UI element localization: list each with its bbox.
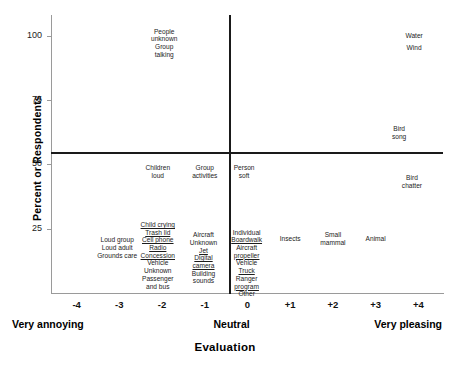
point-label: Unknown (141, 267, 175, 275)
point-label: Building (190, 270, 218, 278)
column-zero: IndividualBoardwalkAircraftpropellerVehi… (231, 229, 262, 298)
point-label: Animal (366, 235, 386, 243)
x-tick-minus2: -2 (142, 299, 182, 310)
y-tick-50: 50 (8, 158, 42, 168)
y-tick-75: 75 (8, 94, 42, 104)
point-label: Trash lid (141, 229, 175, 237)
x-tick-plus1: +1 (270, 299, 310, 310)
point-label: Vehicle (141, 259, 175, 267)
point-label: and bus (141, 283, 175, 291)
anchor-very-annoying: Very annoying (12, 318, 84, 330)
point-label: Water (405, 32, 422, 40)
y-tick-mark (47, 100, 51, 101)
x-tick-plus3: +3 (356, 299, 396, 310)
point-label: Passenger (141, 275, 175, 283)
anchor-very-pleasing: Very pleasing (374, 318, 442, 330)
x-tick-plus4: +4 (398, 299, 438, 310)
x-axis-title: Evaluation (0, 341, 450, 353)
point-label: Truck (231, 267, 262, 275)
point-label: Aircraft (190, 231, 218, 239)
point-label: Jet (190, 247, 218, 255)
point-label: program (231, 283, 262, 291)
y-tick-25: 25 (8, 223, 42, 233)
point-label: Children loud (146, 164, 171, 179)
point-label: Group talking (155, 43, 174, 58)
point-label: Insects (280, 235, 301, 243)
evaluation-scatter-chart: Percent or Respondents Evaluation 255075… (0, 0, 450, 369)
x-tick-minus1: -1 (185, 299, 225, 310)
point-label: Ranger (231, 275, 262, 283)
y-tick-mark (47, 164, 51, 165)
reference-line-horizontal (51, 152, 443, 154)
point-label: Loud group (97, 236, 137, 244)
point-label: Vehicle (231, 259, 262, 267)
column-minus3: Loud groupLoud adultGrounds care (97, 236, 137, 259)
point-label: Bird chatter (402, 175, 422, 190)
point-label: Individual (231, 229, 262, 237)
y-tick-mark (47, 229, 51, 230)
point-label: sounds (190, 277, 218, 285)
point-label: Concession (141, 252, 175, 260)
point-label: Person soft (234, 164, 255, 179)
point-label: Other (231, 290, 262, 298)
point-label: Aircraft (231, 244, 262, 252)
point-label: Radio (141, 244, 175, 252)
point-label: Grounds care (97, 252, 137, 260)
x-tick-minus3: -3 (99, 299, 139, 310)
point-label: Wind (407, 45, 422, 53)
column-minus1: AircraftUnknownJetDigitalcameraBuildings… (190, 231, 218, 285)
point-label: Bird song (392, 126, 406, 141)
x-tick-plus2: +2 (313, 299, 353, 310)
x-tick-minus4: -4 (57, 299, 97, 310)
point-label: Child crying (141, 221, 175, 229)
point-label: Boardwalk (231, 236, 262, 244)
point-label: Cell phone (141, 236, 175, 244)
y-tick-100: 100 (8, 30, 42, 40)
point-label: Group activities (192, 164, 217, 179)
point-label: camera (190, 262, 218, 270)
column-minus2: Child cryingTrash lidCell phoneRadioConc… (141, 221, 175, 290)
point-label: propeller (231, 252, 262, 260)
x-tick-0: 0 (228, 299, 268, 310)
point-label: Small mammal (320, 231, 345, 246)
point-label: People unknown (151, 28, 177, 43)
anchor-neutral: Neutral (214, 318, 250, 330)
y-tick-mark (47, 36, 51, 37)
point-label: Unknown (190, 239, 218, 247)
point-label: Digital (190, 254, 218, 262)
point-label: Loud adult (97, 244, 137, 252)
